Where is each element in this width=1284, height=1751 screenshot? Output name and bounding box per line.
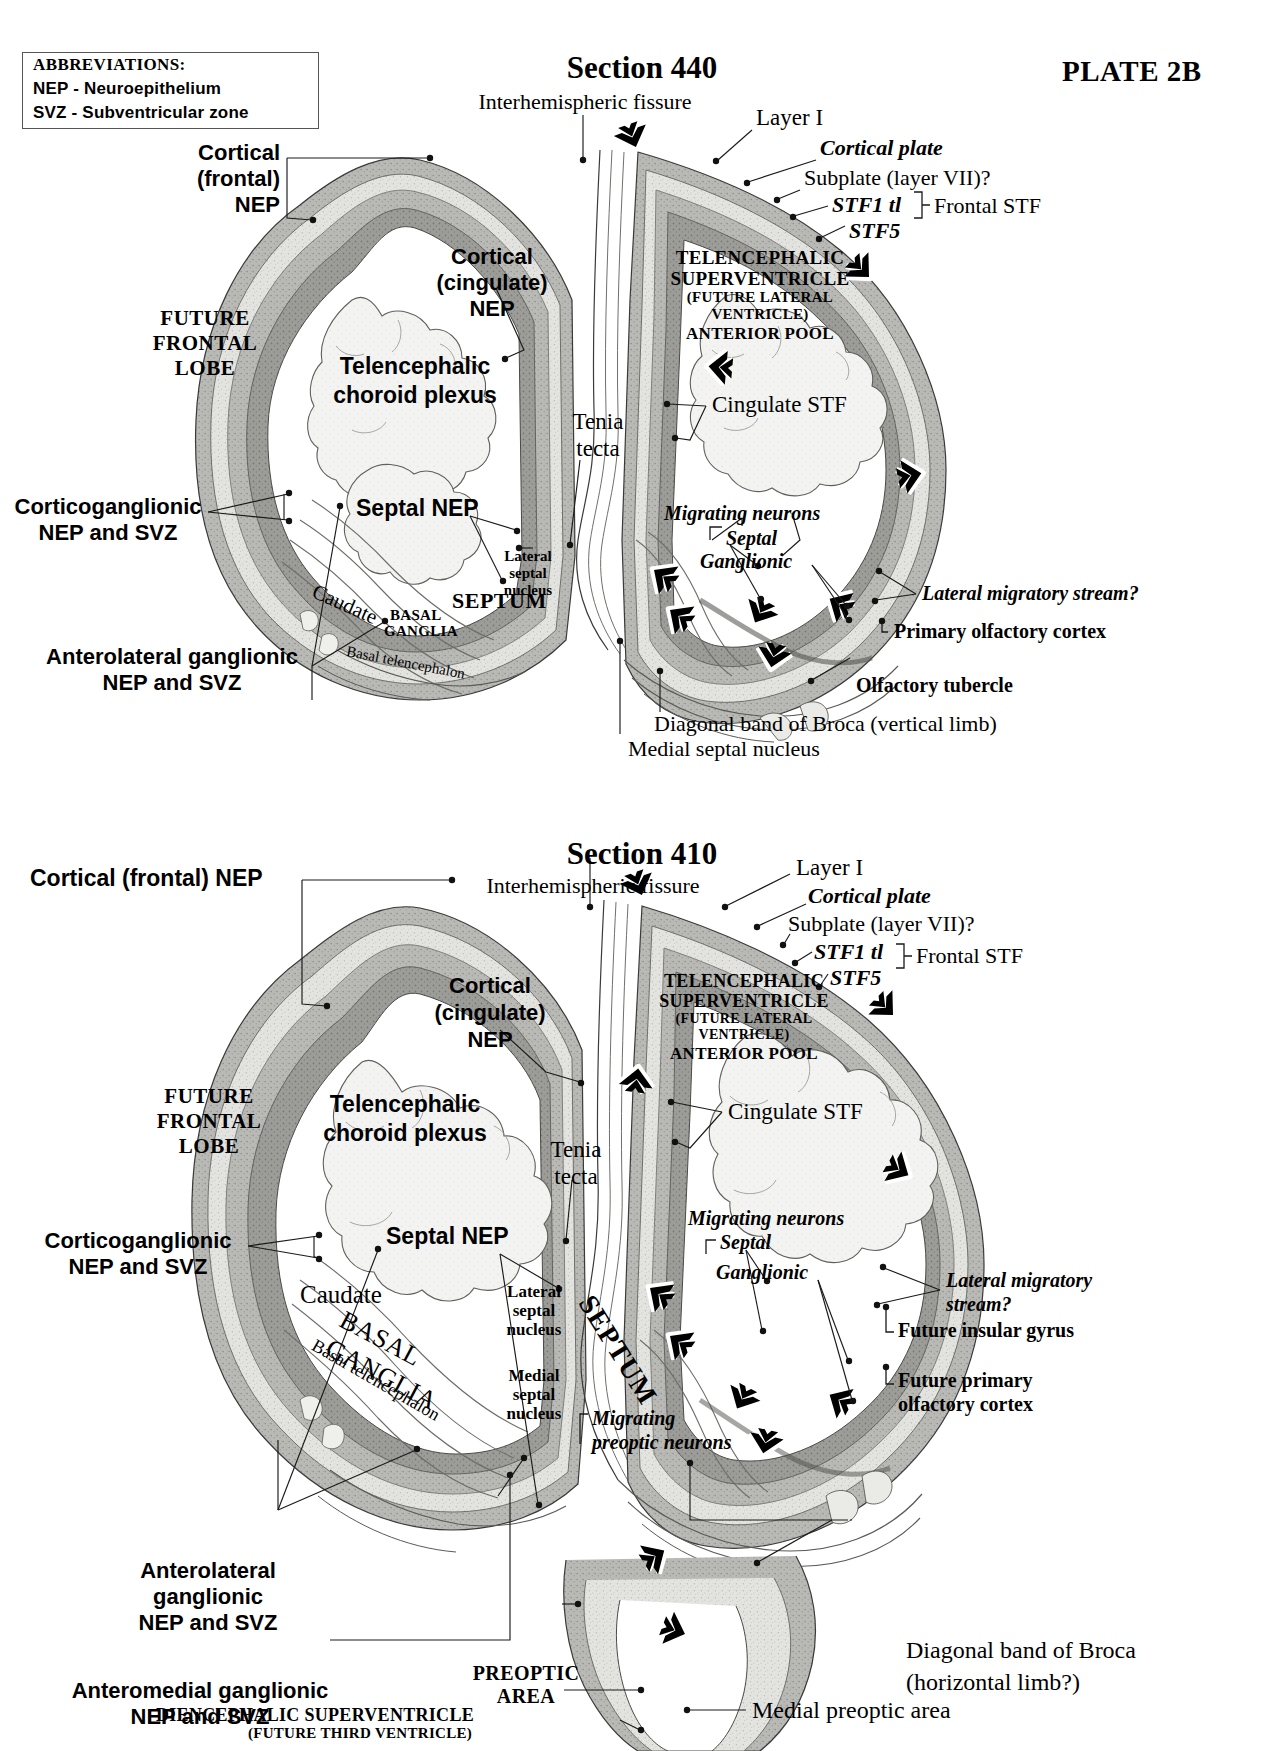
label-corticoganglionic-440: Corticoganglionic NEP and SVZ (4, 494, 212, 546)
label-telencephalic-choroid-plexus-440: Telencephalic choroid plexus (300, 352, 530, 410)
label-frontal-stf-440: Frontal STF (934, 194, 1041, 217)
label-medial-septal-nucleus-440: Medial septal nucleus (628, 737, 820, 760)
label-basal-ganglia-440-l2: GANGLIA (384, 624, 458, 640)
label-cortical-frontal-nep-440: Cortical (frontal) NEP (60, 140, 280, 218)
label-telencephalic-superventricle-440-l4: VENTRICLE) (620, 307, 900, 323)
label-cingulate-stf-410: Cingulate STF (728, 1100, 863, 1124)
label-layer-i-440: Layer I (756, 106, 823, 130)
label-telencephalic-superventricle-410-l5: ANTERIOR POOL (604, 1045, 884, 1063)
label-anterolateral-ganglionic-410: Anterolateral ganglionic NEP and SVZ (100, 1558, 316, 1636)
label-migrating-preoptic-neurons-410: Migrating preoptic neurons (592, 1406, 731, 1454)
label-frontal-stf-410: Frontal STF (916, 944, 1023, 967)
label-olfactory-tubercle-440: Olfactory tubercle (856, 675, 1013, 696)
label-telencephalic-superventricle-440-l2: SUPERVENTRICLE (620, 269, 900, 289)
label-ganglionic-440: Ganglionic (700, 551, 792, 572)
label-interhemispheric-fissure-410: Interhemispheric fissure (448, 874, 738, 897)
label-septum-440: SEPTUM (452, 589, 547, 612)
label-lateral-migratory-stream-440: Lateral migratory stream? (922, 583, 1139, 604)
label-future-primary-olfactory-cortex-410: Future primary olfactory cortex (898, 1368, 1033, 1416)
label-septal-440: Septal (726, 528, 777, 549)
label-medial-preoptic-area-410: Medial preoptic area (752, 1698, 951, 1723)
abbreviation-svz: SVZ - Subventricular zone (23, 101, 318, 125)
label-cortical-plate-410: Cortical plate (808, 884, 931, 907)
label-tenia-tecta-440: Tenia tecta (556, 408, 640, 462)
label-stf5-440: STF5 (849, 219, 900, 242)
label-cortical-plate-440: Cortical plate (820, 136, 943, 159)
label-primary-olfactory-cortex-440: Primary olfactory cortex (894, 621, 1106, 642)
label-diencephalic-superventricle-410-l1: DIENCEPHALIC SUPERVENTRICLE (156, 1706, 474, 1725)
label-ganglionic-410: Ganglionic (716, 1262, 808, 1283)
label-anterolateral-ganglionic-440: Anterolateral ganglionic NEP and SVZ (22, 644, 322, 696)
label-telencephalic-superventricle-410-l3: (FUTURE LATERAL (604, 1012, 884, 1027)
label-lateral-migratory-stream-410: Lateral migratory stream? (946, 1268, 1092, 1316)
label-subplate-410: Subplate (layer VII)? (788, 912, 975, 935)
label-telencephalic-superventricle-410-l2: SUPERVENTRICLE (604, 992, 884, 1011)
label-septal-410: Septal (720, 1232, 771, 1253)
label-cortical-cingulate-nep-440: Cortical (cingulate) NEP (392, 244, 592, 322)
migration-arrow (612, 119, 653, 155)
label-stf1-tl-410: STF1 tl (814, 940, 883, 963)
label-preoptic-area-410: PREOPTIC AREA (452, 1662, 600, 1708)
label-diagonal-band-of-broca-410-l1: Diagonal band of Broca (906, 1638, 1136, 1663)
label-layer-i-410: Layer I (796, 856, 863, 880)
label-telencephalic-superventricle-410-l4: VENTRICLE) (604, 1028, 884, 1043)
label-future-frontal-lobe-410: FUTURE FRONTAL LOBE (124, 1084, 294, 1159)
label-future-frontal-lobe-440: FUTURE FRONTAL LOBE (120, 306, 290, 381)
label-telencephalic-superventricle-410-l1: TELENCEPHALIC (604, 972, 884, 991)
label-septal-nep-440: Septal NEP (356, 496, 479, 520)
label-cortical-frontal-nep-410: Cortical (frontal) NEP (30, 866, 263, 890)
label-medial-septal-nucleus-410: Medial septal nucleus (494, 1366, 574, 1423)
label-tenia-tecta-410: Tenia tecta (534, 1136, 618, 1190)
label-migrating-neurons-410: Migrating neurons (688, 1208, 844, 1229)
label-telencephalic-superventricle-440-l1: TELENCEPHALIC (620, 248, 900, 268)
label-telencephalic-choroid-plexus-410: Telencephalic choroid plexus (290, 1090, 520, 1148)
label-lateral-septal-nucleus-410: Lateral septal nucleus (494, 1282, 574, 1339)
label-subplate-440: Subplate (layer VII)? (804, 166, 991, 189)
atlas-plate: ABBREVIATIONS: NEP - Neuroepithelium SVZ… (0, 0, 1284, 1751)
label-cortical-cingulate-nep-410: Cortical (cingulate) NEP (390, 972, 590, 1053)
label-telencephalic-superventricle-440-l5: ANTERIOR POOL (620, 325, 900, 343)
label-diencephalic-superventricle-410-l2: (FUTURE THIRD VENTRICLE) (156, 1726, 564, 1742)
label-basal-ganglia-440-l1: BASAL (390, 608, 442, 624)
plate-id: PLATE 2B (1062, 56, 1258, 87)
label-corticoganglionic-410: Corticoganglionic NEP and SVZ (30, 1228, 246, 1280)
label-interhemispheric-fissure-440: Interhemispheric fissure (440, 90, 730, 113)
label-stf1-tl-440: STF1 tl (832, 193, 901, 216)
label-future-insular-gyrus-410: Future insular gyrus (898, 1320, 1074, 1341)
label-cingulate-stf-440: Cingulate STF (712, 393, 847, 417)
label-septal-nep-410: Septal NEP (386, 1224, 509, 1248)
label-diagonal-band-of-broca-410-l2: (horizontal limb?) (906, 1670, 1080, 1695)
label-telencephalic-superventricle-440-l3: (FUTURE LATERAL (620, 290, 900, 306)
label-diagonal-band-of-broca-440: Diagonal band of Broca (vertical limb) (654, 712, 997, 735)
label-caudate-410: Caudate (300, 1282, 382, 1309)
label-migrating-neurons-440: Migrating neurons (664, 503, 820, 524)
